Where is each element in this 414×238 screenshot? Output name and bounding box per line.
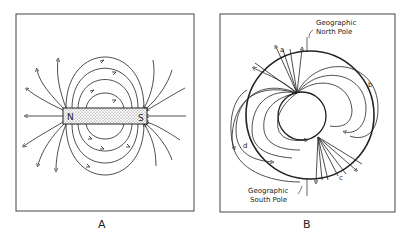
magnet-south-label: S — [138, 113, 144, 123]
earth-core — [278, 92, 326, 140]
magnet-north-label: N — [67, 112, 74, 122]
panel-a — [16, 14, 194, 211]
point-c-label: c — [339, 174, 343, 182]
south-pole-label-line2: South Pole — [250, 196, 287, 204]
point-d-label: d — [243, 142, 247, 150]
point-a-label: a — [280, 46, 284, 54]
north-pole-label-line2: North Pole — [316, 28, 352, 36]
north-pole-label-line1: Geographic — [316, 19, 356, 27]
south-pole-label-line1: Geographic — [248, 187, 288, 195]
panel-b — [220, 14, 395, 212]
panel-a-caption: A — [98, 218, 106, 231]
bar-magnet — [63, 108, 147, 124]
point-b-label: b — [368, 81, 373, 89]
figure: N S A Geographic — [0, 0, 414, 238]
panel-b-caption: B — [303, 218, 311, 231]
